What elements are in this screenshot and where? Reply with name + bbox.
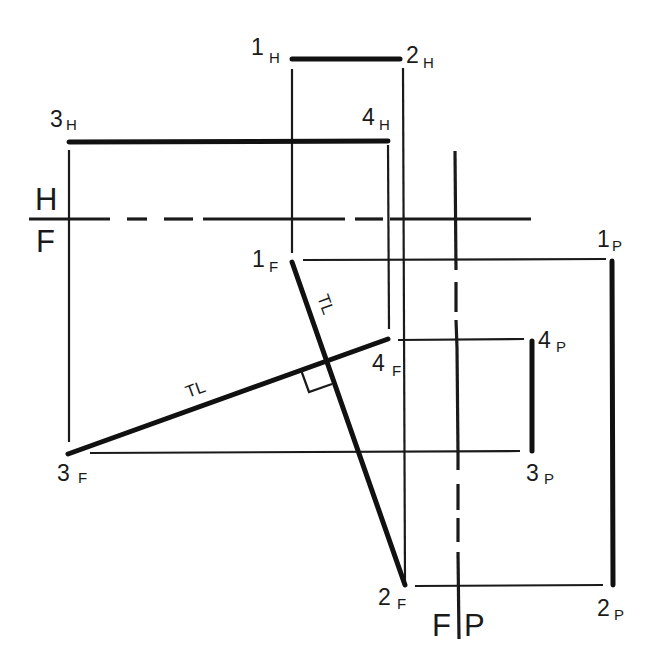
fold-line-fp — [455, 151, 459, 639]
svg-text:H: H — [66, 116, 77, 133]
point-label-4f: 4 F — [372, 350, 401, 379]
orthographic-projection-diagram: H F F P TL TL 1 H 2 H 3 H 4 H 1 F 4 F 3 … — [0, 0, 646, 665]
plane-label-f-top: F — [36, 224, 55, 259]
svg-text:F: F — [269, 258, 278, 275]
svg-text:4: 4 — [362, 104, 375, 130]
svg-text:P: P — [614, 606, 624, 623]
point-label-3f: 3 F — [57, 460, 87, 486]
svg-text:4: 4 — [372, 350, 385, 376]
svg-text:2: 2 — [406, 42, 419, 68]
svg-text:2: 2 — [378, 584, 391, 610]
point-label-2p: 2 P — [597, 595, 624, 623]
svg-text:1: 1 — [597, 226, 610, 252]
point-label-4p: 4 P — [538, 327, 566, 355]
svg-text:1: 1 — [252, 246, 265, 272]
point-label-3h: 3 H — [50, 106, 77, 133]
point-label-1f: 1 F — [252, 246, 278, 275]
plane-label-h: H — [35, 182, 57, 217]
svg-text:F: F — [397, 595, 406, 612]
plane-label-f-right: F — [432, 608, 451, 643]
svg-text:1: 1 — [251, 34, 264, 60]
point-label-1p: 1 P — [597, 226, 622, 254]
point-label-3p: 3 P — [526, 460, 554, 487]
right-angle-marker — [301, 370, 332, 392]
svg-text:P: P — [544, 470, 554, 487]
point-label-2h: 2 H — [406, 42, 434, 71]
projection-lines — [69, 68, 606, 586]
svg-text:F: F — [392, 362, 401, 379]
svg-text:P: P — [612, 237, 622, 254]
plane-label-p: P — [464, 608, 485, 643]
svg-text:F: F — [78, 469, 87, 486]
point-label-1h: 1 H — [251, 34, 280, 66]
svg-text:P: P — [556, 338, 566, 355]
svg-text:3: 3 — [57, 460, 70, 486]
svg-text:3: 3 — [526, 460, 539, 486]
svg-text:4: 4 — [538, 327, 551, 353]
svg-text:3: 3 — [50, 106, 63, 132]
point-label-4h: 4 H — [362, 104, 390, 133]
svg-text:H: H — [379, 116, 390, 133]
tl-label-line-34: TL — [183, 377, 208, 402]
svg-text:H: H — [269, 49, 280, 66]
object-lines — [68, 59, 613, 585]
svg-text:H: H — [423, 54, 434, 71]
point-label-2f: 2 F — [378, 584, 406, 612]
line-3h-4h — [69, 141, 388, 142]
tl-label-line-12: TL — [313, 292, 338, 317]
line-1p-2p — [612, 261, 613, 585]
svg-text:2: 2 — [597, 595, 610, 621]
